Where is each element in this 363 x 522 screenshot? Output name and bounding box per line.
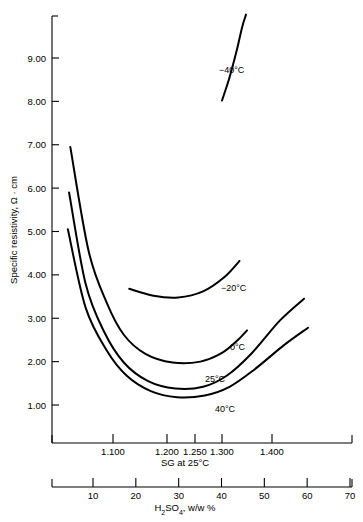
figure-specific-resistivity-chart: 9.008.007.006.005.004.003.002.001.00 1.1… — [0, 0, 363, 522]
y-tick-label: 7.00 — [28, 139, 47, 150]
y-axis-title: Specific resistivity, Ω · cm — [8, 176, 19, 284]
sg-tick-label: 1.200 — [155, 446, 179, 457]
y-tick-label: 4.00 — [28, 269, 47, 280]
conc-axis-title: H2SO4, w/w % — [154, 502, 216, 516]
conc-tick-label: 10 — [88, 490, 99, 501]
sg-tick-label: 1.400 — [260, 446, 284, 457]
curve-label-25: 25°C — [205, 374, 226, 384]
curve-25 — [69, 192, 304, 389]
curve-40 — [68, 229, 308, 397]
sg-tick-label: 1.250 — [183, 446, 207, 457]
sg-axis-title: SG at 25°C — [161, 457, 209, 468]
sg-tick-label: 1.300 — [210, 446, 234, 457]
y-tick-label: 9.00 — [28, 53, 47, 64]
curve-0 — [70, 147, 247, 363]
y-tick-label: 3.00 — [28, 313, 47, 324]
plot-axes — [52, 16, 352, 443]
curve-label-0: 0°C — [230, 342, 246, 352]
conc-tick-label: 20 — [131, 490, 142, 501]
conc-axis-ticks: 10203040506070 — [88, 478, 356, 501]
chart-canvas: 9.008.007.006.005.004.003.002.001.00 1.1… — [0, 0, 363, 522]
conc-tick-label: 50 — [259, 490, 270, 501]
sg-tick-label: 1.100 — [101, 446, 125, 457]
y-axis-ticks: 9.008.007.006.005.004.003.002.001.00 — [28, 53, 60, 411]
curve-40-neg — [222, 15, 246, 101]
conc-tick-label: 60 — [302, 490, 313, 501]
y-tick-label: 1.00 — [28, 400, 47, 411]
conc-tick-label: 40 — [216, 490, 227, 501]
y-tick-label: 5.00 — [28, 226, 47, 237]
y-tick-label: 8.00 — [28, 96, 47, 107]
curve-label-minus20: −20°C — [221, 283, 247, 293]
sg-axis-ticks: 1.1001.2001.2501.3001.400 — [101, 434, 284, 457]
y-tick-label: 2.00 — [28, 356, 47, 367]
data-curves — [68, 15, 308, 398]
curve-label-40: 40°C — [215, 404, 236, 414]
conc-tick-label: 70 — [345, 490, 356, 501]
y-tick-label: 6.00 — [28, 183, 47, 194]
conc-tick-label: 30 — [173, 490, 184, 501]
curve-label-minus40: −40°C — [219, 65, 245, 75]
